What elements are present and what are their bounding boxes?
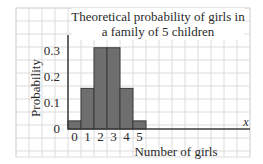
x-tick-label: 0 [71, 129, 78, 144]
y-axis-label: Probability [28, 59, 43, 117]
y-tick-label: 0 [54, 121, 61, 136]
y-tick-labels: 00.10.20.3 [44, 43, 60, 136]
y-tick-label: 0.3 [44, 43, 60, 58]
bar-5 [133, 121, 146, 129]
bar-0 [68, 121, 81, 129]
bar-1 [81, 88, 94, 129]
chart-canvas: Theoretical probability of girls in a fa… [0, 0, 263, 164]
x-tick-label: 4 [123, 129, 130, 144]
bar-3 [107, 48, 120, 129]
x-axis-symbol: x [242, 115, 249, 129]
bar-4 [120, 88, 133, 129]
bar-2 [94, 48, 107, 129]
chart-title-line-2: a family of 5 children [102, 24, 215, 39]
y-tick-label: 0.2 [44, 69, 60, 84]
x-tick-label: 3 [110, 129, 117, 144]
y-tick-label: 0.1 [44, 95, 60, 110]
x-axis-label: Number of girls [134, 144, 217, 159]
x-tick-label: 5 [136, 129, 143, 144]
chart-title-line-1: Theoretical probability of girls in [71, 9, 245, 24]
x-tick-label: 1 [84, 129, 91, 144]
probability-histogram: Theoretical probability of girls in a fa… [0, 0, 263, 164]
x-tick-label: 2 [97, 129, 104, 144]
